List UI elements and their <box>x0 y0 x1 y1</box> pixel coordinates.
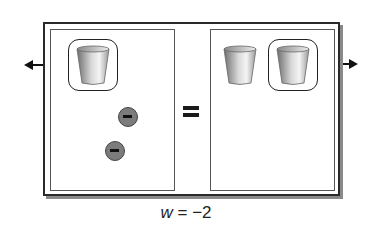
equals-operator: = <box>177 203 187 222</box>
right-side-panel <box>210 29 335 191</box>
cup-icon <box>273 44 313 86</box>
arrow-head-left-icon <box>24 60 33 70</box>
equals-sign <box>181 100 203 122</box>
minus-icon <box>123 115 132 118</box>
arrow-head-right-icon <box>349 59 358 69</box>
left-side-panel <box>50 29 175 191</box>
variable: w <box>160 203 172 222</box>
minus-icon <box>110 149 119 152</box>
negative-counter <box>105 141 125 161</box>
cup-icon <box>220 44 260 86</box>
negative-counter <box>118 107 138 127</box>
cup-icon <box>73 44 113 86</box>
solution-caption: w = −2 <box>0 203 372 223</box>
solution-value: −2 <box>192 203 211 222</box>
